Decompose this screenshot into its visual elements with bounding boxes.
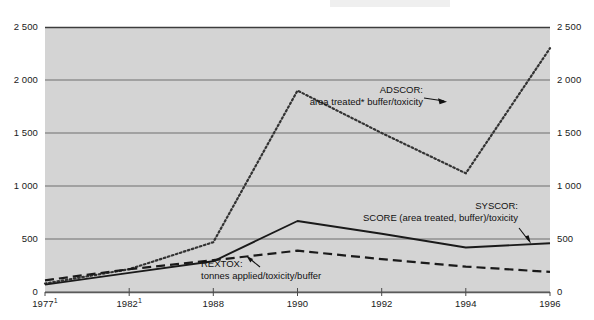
y-axis-label-right-2500: 2 500 <box>557 21 594 32</box>
annotation-syscor: SYSCOR: SCORE (area treated, buffer)/tox… <box>268 200 518 224</box>
x-axis-label-1977: 19771 <box>15 298 75 309</box>
y-axis-label-left-1500: 1 500 <box>0 127 38 138</box>
y-axis-label-left-2000: 2 000 <box>0 74 38 85</box>
y-axis-label-right-1000: 1 000 <box>557 180 594 191</box>
annotation-rextox-detail: tonnes applied/toxicity/buffer <box>201 270 321 281</box>
y-axis-label-left-500: 500 <box>0 233 38 244</box>
y-axis-label-left-0: 0 <box>0 286 38 297</box>
annotation-syscor-title: SYSCOR: <box>268 200 518 212</box>
annotation-syscor-detail: SCORE (area treated, buffer)/toxicity <box>363 212 518 223</box>
y-axis-label-left-2500: 2 500 <box>0 21 38 32</box>
annotation-adscor-title: ADSCOR: <box>243 84 423 96</box>
chart-figure: 2 5002 0001 5001 0005000 2 5002 0001 500… <box>0 0 594 320</box>
annotation-adscor: ADSCOR: area treated* buffer/toxicity <box>243 84 423 108</box>
y-axis-label-left-1000: 1 000 <box>0 180 38 191</box>
x-axis-label-1988: 1988 <box>183 298 243 309</box>
annotation-rextox-title: REXTOX: <box>201 258 401 270</box>
x-axis-label-footnote-marker: 1 <box>54 297 58 304</box>
x-axis-label-1996: 1996 <box>520 298 580 309</box>
annotation-adscor-detail: area treated* buffer/toxicity <box>310 96 423 107</box>
x-axis-label-1982: 19821 <box>99 298 159 309</box>
y-axis-label-right-1500: 1 500 <box>557 127 594 138</box>
y-axis-label-right-500: 500 <box>557 233 594 244</box>
y-axis-label-right-0: 0 <box>557 286 594 297</box>
x-axis-label-1992: 1992 <box>352 298 412 309</box>
x-axis-label-1994: 1994 <box>436 298 496 309</box>
y-axis-label-right-2000: 2 000 <box>557 74 594 85</box>
x-axis-label-1990: 1990 <box>268 298 328 309</box>
x-axis-label-footnote-marker: 1 <box>138 297 142 304</box>
annotation-rextox: REXTOX: tonnes applied/toxicity/buffer <box>201 258 401 282</box>
